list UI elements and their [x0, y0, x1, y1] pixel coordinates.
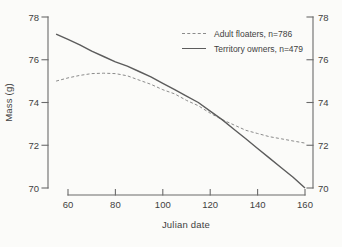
x-tick-label: 140: [250, 199, 266, 210]
dashed-line-sample: [182, 33, 206, 34]
right-y-tick-label: 76: [318, 54, 329, 65]
x-axis-title: Julian date: [146, 219, 226, 230]
x-tick-label: 80: [110, 199, 121, 210]
left-y-tick-label: 76: [28, 54, 39, 65]
x-tick-label: 120: [202, 199, 218, 210]
solid-line-sample: [182, 48, 206, 49]
legend-item-adult-floaters: Adult floaters, n=786: [182, 28, 303, 39]
legend-label: Adult floaters, n=786: [214, 29, 292, 39]
legend-item-territory-owners: Territory owners, n=479: [182, 43, 303, 54]
left-y-tick-label: 72: [28, 140, 39, 151]
x-tick-label: 60: [63, 199, 74, 210]
right-y-tick-label: 72: [318, 140, 329, 151]
x-tick-label: 100: [155, 199, 171, 210]
left-y-tick-label: 74: [28, 97, 39, 108]
legend-label: Territory owners, n=479: [214, 44, 303, 54]
left-y-tick-label: 78: [28, 12, 39, 23]
legend: Adult floaters, n=786 Territory owners, …: [182, 28, 303, 54]
right-y-tick-label: 70: [318, 183, 329, 194]
right-y-tick-label: 74: [318, 97, 329, 108]
x-tick-label: 160: [297, 199, 313, 210]
left-y-tick-label: 70: [28, 183, 39, 194]
series-line-solid: [56, 34, 305, 188]
y-axis-title: Mass (g): [3, 73, 16, 133]
right-y-tick-label: 78: [318, 12, 329, 23]
series-line-dashed: [56, 73, 305, 143]
mass-vs-julian-date-chart: 707274767870727476786080100120140160 Mas…: [0, 0, 342, 247]
